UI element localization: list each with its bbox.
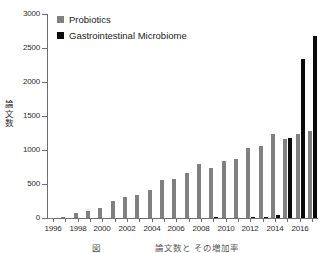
x-axis-tick-label: 2006: [162, 224, 190, 233]
x-axis-tick: [102, 218, 103, 222]
y-axis-tick-label-wrap: 3000: [0, 10, 47, 18]
y-axis-tick-label-wrap: 0: [0, 214, 47, 222]
bar-2010-probiotics: [222, 161, 226, 218]
y-axis-tick-label-wrap: 500: [0, 180, 47, 188]
bar-2012-probiotics: [246, 148, 250, 218]
bar-1999-probiotics: [86, 211, 90, 218]
bar-1998-probiotics: [74, 213, 78, 218]
x-axis-tick: [287, 218, 288, 222]
chart-legend: Probiotics Gastrointestinal Microbiome: [57, 13, 187, 45]
x-axis-tick: [176, 218, 177, 222]
y-axis-tick-label: 1000: [14, 146, 40, 154]
bar-2007-probiotics: [185, 173, 189, 218]
bar-2011-probiotics: [234, 159, 238, 218]
y-axis-tick-label: 0: [14, 214, 40, 222]
x-axis-tick: [78, 218, 79, 222]
legend-item-label: Probiotics: [69, 15, 111, 25]
x-axis-tick: [238, 218, 239, 222]
x-axis-tick-label: 1996: [39, 224, 67, 233]
bar-2009-probiotics: [209, 168, 213, 218]
bar-2004-probiotics: [148, 190, 152, 218]
x-axis-tick: [250, 218, 251, 222]
bar-2017-probiotics: [308, 131, 312, 218]
y-axis-tick-label: 1500: [14, 112, 40, 120]
x-axis-tick: [213, 218, 214, 222]
x-axis-tick: [90, 218, 91, 222]
bar-2016-probiotics: [296, 134, 300, 218]
legend-item-gastrointestinal-microbiome: Gastrointestinal Microbiome: [57, 29, 187, 42]
x-axis-tick-label: 2012: [236, 224, 264, 233]
y-axis-tick-label-wrap: 2500: [0, 44, 47, 52]
bar-2005-probiotics: [160, 180, 164, 218]
x-axis-tick: [127, 218, 128, 222]
y-axis-tick-label-wrap: 1500: [0, 112, 47, 120]
y-axis-tick-label-wrap: 2000: [0, 78, 47, 86]
bar-2015-microbiome: [288, 138, 292, 218]
x-axis-tick: [139, 218, 140, 222]
x-axis-tick: [152, 218, 153, 222]
y-axis-tick-label: 2000: [14, 78, 40, 86]
y-axis-tick-label: 2500: [14, 44, 40, 52]
y-axis-line: [47, 14, 48, 219]
bar-2016-microbiome: [301, 59, 305, 218]
x-axis-tick: [275, 218, 276, 222]
figure-caption: 図 論文数と その増加率: [0, 243, 331, 253]
x-axis-line: [47, 218, 318, 219]
x-axis-tick: [65, 218, 66, 222]
bar-2006-probiotics: [172, 179, 176, 218]
bar-2001-probiotics: [111, 201, 115, 218]
bar-2008-probiotics: [197, 164, 201, 218]
legend-item-label: Gastrointestinal Microbiome: [69, 31, 187, 41]
bar-2014-microbiome: [276, 215, 280, 218]
x-axis-tick-label: 2016: [286, 224, 314, 233]
x-axis-tick: [189, 218, 190, 222]
y-axis-tick-label: 500: [14, 180, 40, 188]
x-axis-tick: [115, 218, 116, 222]
y-axis-tick-label: 3000: [14, 10, 40, 18]
bar-1997-probiotics: [61, 217, 65, 218]
bar-1996-probiotics: [49, 218, 53, 219]
bar-2013-probiotics: [259, 146, 263, 218]
legend-swatch-icon: [57, 32, 64, 39]
bar-2013-microbiome: [264, 217, 268, 218]
legend-item-probiotics: Probiotics: [57, 13, 187, 26]
bar-2017-microbiome: [313, 36, 317, 218]
bar-2000-probiotics: [98, 208, 102, 218]
legend-swatch-icon: [57, 16, 64, 23]
x-axis-tick-label: 2014: [261, 224, 289, 233]
bar-2009-microbiome: [214, 217, 218, 218]
x-axis-tick: [312, 218, 313, 222]
x-axis-tick: [263, 218, 264, 222]
x-axis-tick-label: 2000: [88, 224, 116, 233]
bar-2015-probiotics: [283, 139, 287, 218]
x-axis-tick: [226, 218, 227, 222]
x-axis-tick: [201, 218, 202, 222]
y-axis-tick-label-wrap: 1000: [0, 146, 47, 154]
bar-2014-probiotics: [271, 134, 275, 218]
x-axis-tick: [300, 218, 301, 222]
bar-2002-probiotics: [123, 197, 127, 218]
x-axis-tick-label: 2008: [187, 224, 215, 233]
x-axis-tick-label: 2002: [113, 224, 141, 233]
bar-2003-probiotics: [135, 195, 139, 218]
x-axis-tick: [164, 218, 165, 222]
bar-2012-microbiome: [251, 217, 255, 218]
